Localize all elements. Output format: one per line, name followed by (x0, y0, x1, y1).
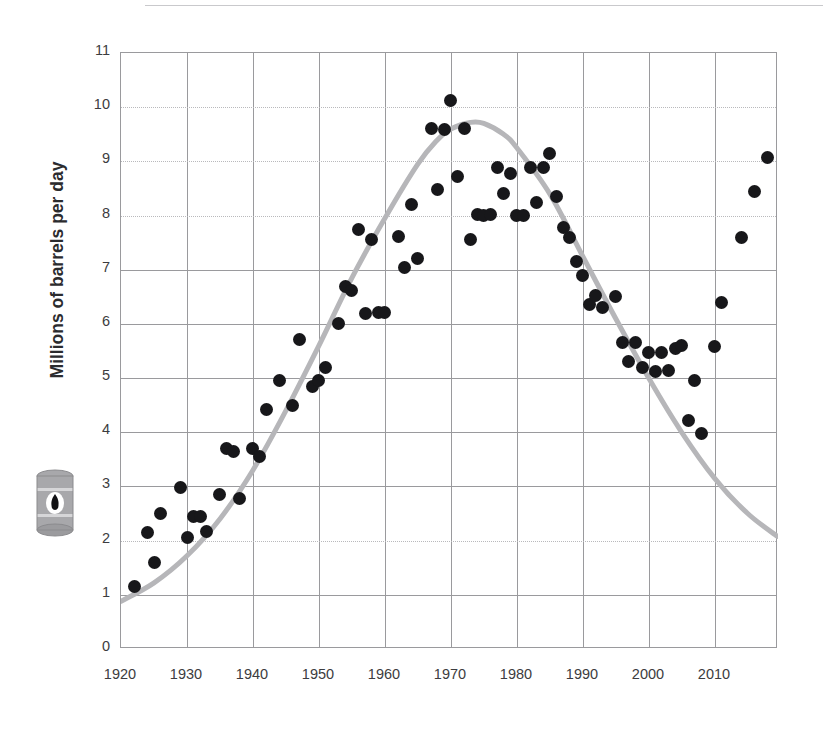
plot-area (120, 52, 777, 648)
data-point (148, 556, 161, 569)
y-axis-tick-label: 2 (80, 530, 110, 546)
data-point (378, 306, 391, 319)
y-axis-label: Millions of barrels per day (47, 120, 68, 420)
y-axis-tick-label: 3 (80, 475, 110, 491)
data-point (181, 531, 194, 544)
x-axis-tick-label: 1920 (90, 666, 150, 682)
y-axis-tick-label: 6 (80, 313, 110, 329)
data-point (286, 399, 299, 412)
x-axis-tick-label: 1960 (354, 666, 414, 682)
y-axis-tick-label: 4 (80, 421, 110, 437)
data-point (293, 333, 306, 346)
y-axis-tick-label: 8 (80, 205, 110, 221)
data-point (398, 261, 411, 274)
x-axis-tick-label: 1940 (222, 666, 282, 682)
data-point (649, 365, 662, 378)
y-axis-tick-label: 0 (80, 638, 110, 654)
y-axis-tick-label: 5 (80, 367, 110, 383)
data-point (563, 231, 576, 244)
data-point (530, 196, 543, 209)
y-axis-tick-label: 11 (80, 42, 110, 58)
x-axis-tick-label: 1970 (420, 666, 480, 682)
data-point (260, 403, 273, 416)
data-point (662, 364, 675, 377)
data-point (227, 445, 240, 458)
data-point (484, 208, 497, 221)
y-axis-tick-label: 9 (80, 150, 110, 166)
data-point (359, 307, 372, 320)
data-point (655, 346, 668, 359)
data-point (233, 492, 246, 505)
y-axis-tick-label: 10 (80, 96, 110, 112)
data-point (748, 185, 761, 198)
x-axis-tick-label: 1980 (486, 666, 546, 682)
y-axis-tick-label: 1 (80, 584, 110, 600)
data-point (543, 147, 556, 160)
data-point (425, 122, 438, 135)
data-point (154, 507, 167, 520)
x-axis-tick-label: 1990 (552, 666, 612, 682)
data-point (352, 223, 365, 236)
x-axis-tick-label: 1930 (156, 666, 216, 682)
y-axis-tick-label: 7 (80, 259, 110, 275)
y-axis-label-container: Millions of barrels per day (0, 0, 60, 700)
data-point (431, 183, 444, 196)
oil-barrel-icon (31, 468, 79, 538)
data-point (570, 255, 583, 268)
data-point (550, 190, 563, 203)
data-point (636, 361, 649, 374)
data-point (504, 167, 517, 180)
data-point (451, 170, 464, 183)
data-point (642, 346, 655, 359)
data-point (174, 481, 187, 494)
x-axis-tick-label: 2000 (618, 666, 678, 682)
data-point (524, 161, 537, 174)
data-point (405, 198, 418, 211)
x-axis-tick-label: 1950 (288, 666, 348, 682)
data-point (576, 269, 589, 282)
data-point (319, 361, 332, 374)
data-point (517, 209, 530, 222)
data-point (194, 510, 207, 523)
data-point (682, 414, 695, 427)
data-point (715, 296, 728, 309)
oil-production-chart: Millions of barrels per day 192019301940… (0, 0, 823, 731)
data-point (392, 230, 405, 243)
data-point (128, 580, 141, 593)
data-point (735, 231, 748, 244)
data-point (761, 151, 774, 164)
data-point (141, 526, 154, 539)
data-point (695, 427, 708, 440)
data-point (491, 161, 504, 174)
data-point (458, 122, 471, 135)
x-axis-tick-label: 2010 (684, 666, 744, 682)
